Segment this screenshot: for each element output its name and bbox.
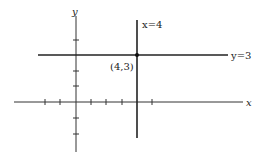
line-y-3-label: y=3: [230, 50, 251, 61]
x-axis-label: x: [246, 97, 252, 108]
line-x-4-label: x=4: [142, 19, 162, 30]
intersection-label: (4,3): [110, 61, 134, 72]
intersection-point: [135, 53, 139, 57]
y-axis-label: y: [71, 6, 78, 17]
coordinate-plane: y x x=4 y=3 (4,3): [0, 0, 263, 162]
